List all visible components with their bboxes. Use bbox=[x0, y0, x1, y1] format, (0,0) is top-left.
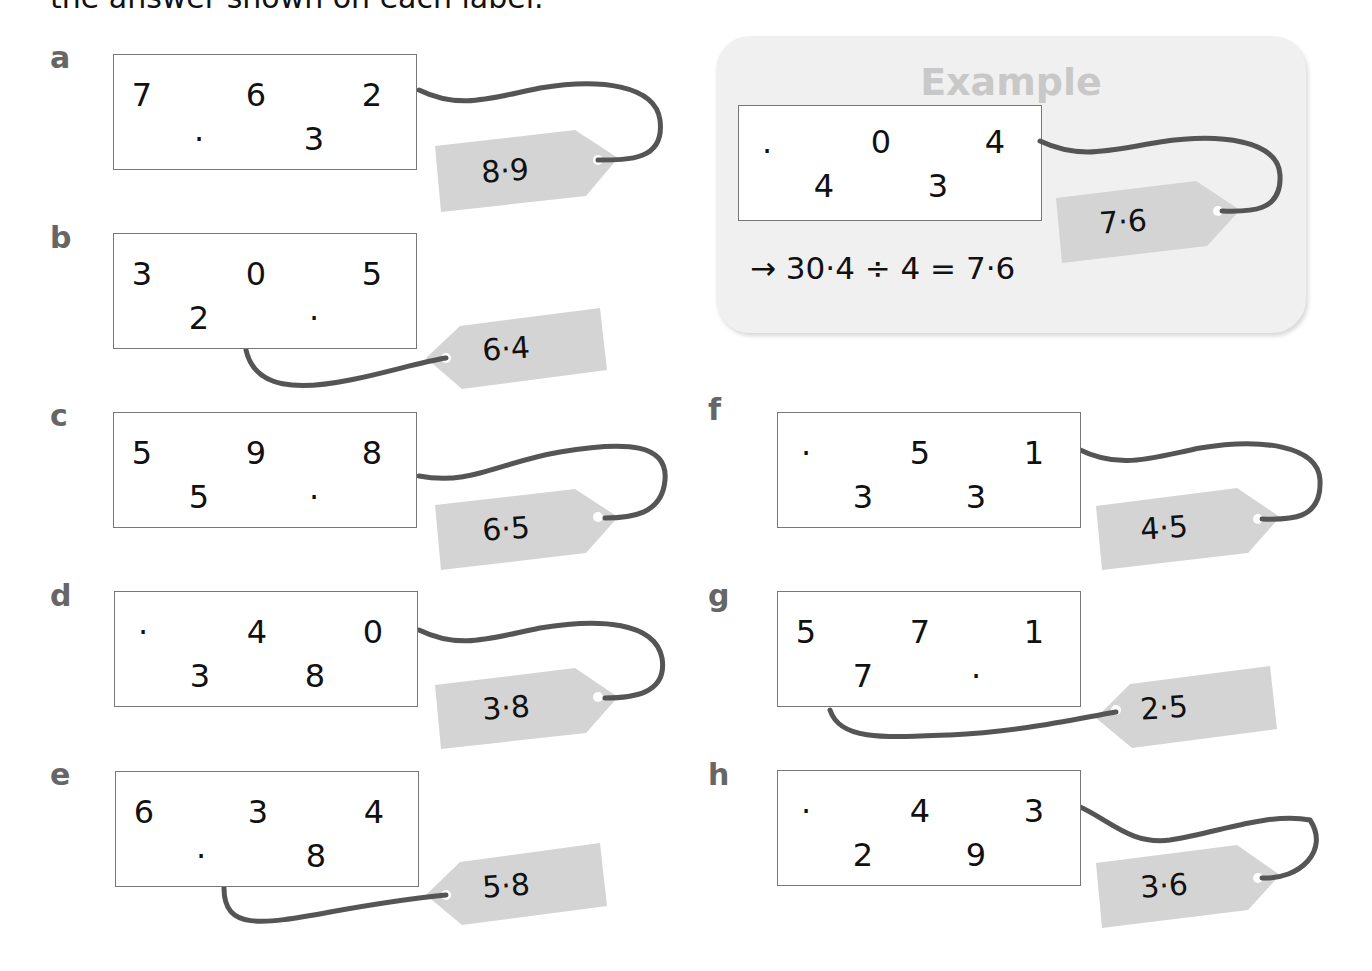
tag-answer: 2·5 bbox=[1103, 686, 1225, 729]
card-cell: 4 bbox=[804, 168, 844, 204]
card-cell: 0 bbox=[236, 256, 276, 292]
card-cell: 3 bbox=[1014, 793, 1054, 829]
card-cell: 5 bbox=[786, 614, 826, 650]
tag-answer: 6·5 bbox=[445, 507, 567, 550]
card-cell: 1 bbox=[1014, 614, 1054, 650]
card-cell: 1 bbox=[1014, 435, 1054, 471]
card-cell: 7 bbox=[900, 614, 940, 650]
card-cell: 4 bbox=[900, 793, 940, 829]
number-card: 5 7 1 7 · bbox=[777, 591, 1081, 707]
card-cell: 3 bbox=[918, 168, 958, 204]
card-cell: 0 bbox=[861, 124, 901, 160]
problem-letter: f bbox=[708, 392, 721, 427]
number-card: · 4 0 3 8 bbox=[114, 591, 418, 707]
tag-answer: 8·9 bbox=[444, 149, 566, 192]
problem-letter: b bbox=[50, 220, 71, 255]
card-cell: 6 bbox=[124, 794, 164, 830]
tag-answer: 5·8 bbox=[445, 864, 567, 907]
card-cell: 3 bbox=[238, 794, 278, 830]
card-cell: 5 bbox=[122, 435, 162, 471]
card-cell: 5 bbox=[900, 435, 940, 471]
number-card: 6 3 4 · 8 bbox=[115, 771, 419, 887]
card-cell: 2 bbox=[179, 300, 219, 336]
tag-answer: 3·6 bbox=[1103, 864, 1225, 907]
tag-answer: 6·4 bbox=[445, 327, 567, 370]
card-cell: 7 bbox=[843, 658, 883, 694]
card-cell: · bbox=[294, 300, 334, 336]
problem-letter: d bbox=[50, 578, 71, 613]
card-cell: · bbox=[786, 435, 826, 471]
instruction-text: the answer shown on each label. bbox=[50, 0, 544, 15]
card-cell: 3 bbox=[294, 121, 334, 157]
tag-string bbox=[830, 710, 1116, 737]
tag-string bbox=[224, 888, 446, 921]
tag-answer: 4·5 bbox=[1103, 506, 1225, 549]
card-cell: · bbox=[786, 793, 826, 829]
card-cell: 0 bbox=[353, 614, 393, 650]
number-card: 3 0 5 2 · bbox=[113, 233, 417, 349]
example-equation: → 30·4 ÷ 4 = 7·6 bbox=[750, 250, 1015, 286]
card-cell: 9 bbox=[236, 435, 276, 471]
number-card: · 5 1 3 3 bbox=[777, 412, 1081, 528]
card-cell: · bbox=[181, 838, 221, 874]
problem-letter: a bbox=[50, 40, 70, 75]
card-cell: 3 bbox=[843, 479, 883, 515]
card-cell: 4 bbox=[354, 794, 394, 830]
number-card: 5 9 8 5 · bbox=[113, 412, 417, 528]
problem-letter: g bbox=[708, 578, 729, 613]
card-cell: 5 bbox=[179, 479, 219, 515]
problem-letter: c bbox=[50, 398, 68, 433]
card-cell: · bbox=[956, 658, 996, 694]
tag-string bbox=[419, 84, 660, 160]
card-cell: . bbox=[747, 124, 787, 160]
card-cell: 4 bbox=[237, 614, 277, 650]
problem-letter: e bbox=[50, 757, 70, 792]
problem-letter: h bbox=[708, 757, 729, 792]
number-card: 7 6 2 · 3 bbox=[113, 54, 417, 170]
card-cell: 7 bbox=[122, 77, 162, 113]
tag-answer: 3·8 bbox=[445, 686, 567, 729]
card-cell: 6 bbox=[236, 77, 276, 113]
card-cell: · bbox=[123, 614, 163, 650]
tag-string bbox=[246, 350, 446, 386]
card-cell: 8 bbox=[352, 435, 392, 471]
card-cell: 8 bbox=[295, 658, 335, 694]
card-cell: 4 bbox=[975, 124, 1015, 160]
example-card: . 0 4 4 3 bbox=[738, 105, 1042, 221]
card-cell: · bbox=[294, 479, 334, 515]
number-card: · 4 3 2 9 bbox=[777, 770, 1081, 886]
card-cell: 3 bbox=[956, 479, 996, 515]
card-cell: 3 bbox=[122, 256, 162, 292]
card-cell: 3 bbox=[180, 658, 220, 694]
card-cell: 2 bbox=[843, 837, 883, 873]
card-cell: 8 bbox=[296, 838, 336, 874]
card-cell: · bbox=[179, 121, 219, 157]
example-title: Example bbox=[716, 60, 1306, 104]
card-cell: 2 bbox=[352, 77, 392, 113]
tag-string bbox=[419, 446, 665, 518]
card-cell: 5 bbox=[352, 256, 392, 292]
card-cell: 9 bbox=[956, 837, 996, 873]
